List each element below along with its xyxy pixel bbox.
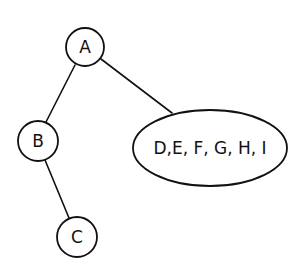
node-c: C (57, 217, 97, 257)
node-b: B (18, 121, 58, 161)
edge-b-c (45, 160, 69, 218)
edge-a-defghi (101, 59, 172, 113)
tree-diagram: A B C D,E, F, G, H, I (0, 0, 303, 274)
node-b-label: B (32, 131, 44, 151)
edge-a-b (46, 65, 75, 122)
node-defghi: D,E, F, G, H, I (133, 110, 287, 186)
node-a: A (66, 28, 104, 66)
node-a-label: A (79, 37, 91, 57)
node-c-label: C (71, 227, 83, 247)
node-defghi-label: D,E, F, G, H, I (153, 138, 266, 158)
